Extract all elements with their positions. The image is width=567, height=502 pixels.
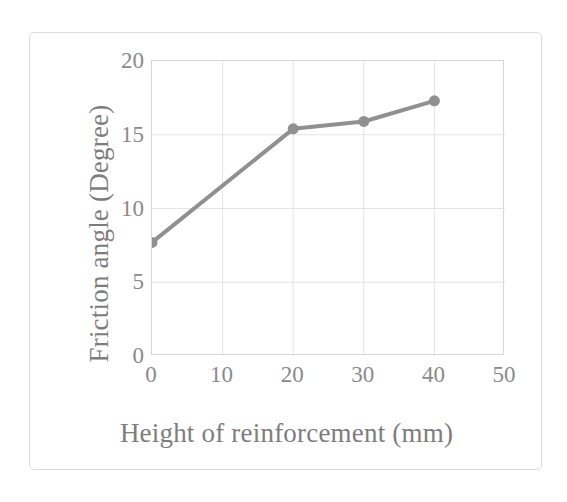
figure-root: Friction angle (Degree) 05101520 0102030… — [0, 0, 567, 502]
plot-area — [151, 60, 504, 355]
x-axis-title: Height of reinforcement (mm) — [30, 418, 543, 449]
plot-svg — [152, 61, 505, 356]
data-point-marker — [429, 95, 440, 106]
x-tick-labels: 01020304050 — [151, 363, 504, 399]
x-tick-label: 50 — [474, 363, 534, 386]
figure-frame: Friction angle (Degree) 05101520 0102030… — [29, 32, 542, 470]
x-tick-label: 30 — [333, 363, 393, 386]
x-tick-label: 0 — [121, 363, 181, 386]
x-tick-label: 20 — [262, 363, 322, 386]
y-tick-labels: 05101520 — [96, 33, 144, 471]
x-tick-label: 40 — [403, 363, 463, 386]
data-point-marker — [358, 116, 369, 127]
data-point-marker — [288, 123, 299, 134]
grid-lines — [152, 61, 505, 356]
y-tick-label: 20 — [100, 49, 144, 72]
y-tick-label: 10 — [100, 197, 144, 220]
y-tick-label: 15 — [100, 123, 144, 146]
x-tick-label: 10 — [192, 363, 252, 386]
series-markers — [152, 95, 440, 248]
y-tick-label: 5 — [100, 270, 144, 293]
